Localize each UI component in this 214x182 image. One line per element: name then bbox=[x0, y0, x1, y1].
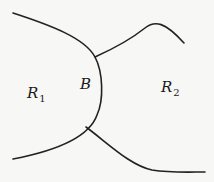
diagram-canvas: R1 B R2 bbox=[0, 0, 214, 182]
region-1-label: R1 bbox=[26, 84, 46, 104]
region-2-label: R2 bbox=[160, 78, 180, 98]
boundary-label: B bbox=[79, 75, 91, 93]
region-diagram: R1 B R2 bbox=[0, 0, 214, 182]
upper-branch-curve bbox=[95, 24, 184, 57]
lower-branch-curve bbox=[86, 127, 205, 172]
